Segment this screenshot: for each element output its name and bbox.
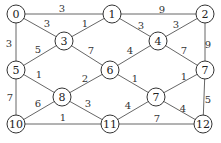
node-label: 4: [155, 35, 162, 48]
graph-node-n1: 1: [103, 5, 121, 23]
edge-weight-label: 5: [35, 44, 41, 55]
edge-weight-label: 7: [181, 45, 187, 56]
edge-weight-label: 1: [60, 112, 66, 123]
graph-node-n3: 3: [55, 32, 73, 50]
edge-weight-label: 3: [138, 20, 144, 31]
graph-node-n0: 0: [7, 5, 25, 23]
edge-weight-label: 6: [35, 98, 41, 109]
edge-weight-label: 7: [154, 113, 160, 124]
node-label: 2: [202, 8, 209, 21]
edge-weight-label: 7: [88, 45, 94, 56]
edge-weight-label: 3: [59, 3, 65, 14]
edge-weight-label: 3: [6, 38, 12, 49]
node-label: 6: [107, 64, 114, 77]
node-label: 7: [202, 64, 209, 77]
graph-node-n8: 8: [53, 88, 71, 106]
graph-node-n12: 12: [194, 115, 212, 133]
edge-weight-label: 4: [125, 100, 131, 111]
edge-weight-label: 1: [181, 71, 187, 82]
node-label: 5: [13, 64, 20, 77]
node-label: 0: [13, 8, 20, 21]
graph-node-n5: 5: [7, 61, 25, 79]
edge-weight-label: 3: [173, 19, 179, 30]
graph-node-n11: 11: [101, 115, 119, 133]
edge-weight-label: 4: [127, 45, 133, 56]
edge-weight-label: 1: [82, 18, 88, 29]
graph-node-n10: 10: [7, 115, 25, 133]
graph-diagram: 333193395747172115631447 012345678710111…: [0, 0, 221, 143]
node-label: 10: [9, 118, 23, 131]
graph-node-n4: 4: [149, 32, 167, 50]
edge-weight-label: 3: [85, 98, 91, 109]
edge-weight-label: 2: [82, 73, 88, 84]
graph-node-n2: 2: [196, 5, 214, 23]
graph-node-n7m: 7: [147, 88, 165, 106]
edge-weight-label: 3: [44, 18, 50, 29]
graph-node-n6: 6: [101, 61, 119, 79]
edge-weight-label: 5: [205, 94, 211, 105]
edge-weight-label: 1: [132, 73, 138, 84]
edge-weight-label: 9: [205, 39, 211, 50]
graph-node-n7r: 7: [196, 61, 214, 79]
edge-weight-label: 4: [180, 103, 186, 114]
node-label: 11: [103, 118, 117, 131]
edge-weight-label: 7: [7, 92, 13, 103]
node-label: 3: [61, 35, 68, 48]
node-label: 8: [59, 91, 66, 104]
node-label: 1: [109, 8, 116, 21]
edge-weight-label: 1: [36, 69, 42, 80]
edge-weight-label: 9: [159, 4, 165, 15]
node-label: 12: [196, 118, 210, 131]
node-label: 7: [153, 91, 160, 104]
